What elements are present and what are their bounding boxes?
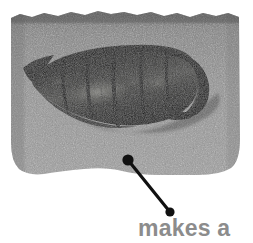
specimen-photo-panel <box>10 11 241 177</box>
figure-caption: makes a <box>138 215 253 241</box>
figure-scene: makes a <box>0 0 253 243</box>
specimen-photo-image <box>10 11 241 177</box>
